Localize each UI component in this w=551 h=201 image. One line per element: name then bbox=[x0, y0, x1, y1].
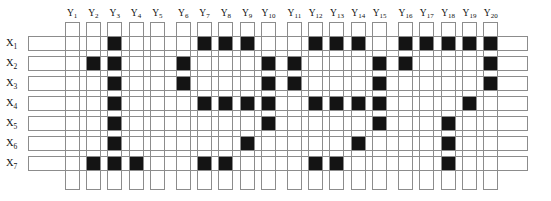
filled-cell-x4-y19 bbox=[463, 97, 476, 110]
filled-cell-x7-y13 bbox=[330, 157, 343, 170]
filled-cell-x4-y10 bbox=[262, 97, 275, 110]
row-label-text: X bbox=[6, 77, 14, 88]
row-label-text: X bbox=[6, 157, 14, 168]
row-strip-x4 bbox=[28, 96, 528, 111]
column-label-text: Y bbox=[178, 8, 185, 18]
column-label-text: Y bbox=[67, 8, 74, 18]
column-label-subscript: 10 bbox=[268, 12, 275, 20]
column-label-y20: Y20 bbox=[475, 8, 506, 20]
row-label-x4: X4 bbox=[6, 97, 17, 110]
filled-cell-x6-y14 bbox=[352, 137, 365, 150]
filled-cell-x7-y12 bbox=[309, 157, 322, 170]
column-label-text: Y bbox=[242, 8, 249, 18]
row-label-text: X bbox=[6, 37, 14, 48]
filled-cell-x4-y9 bbox=[241, 97, 254, 110]
row-label-subscript: 5 bbox=[14, 122, 18, 131]
column-label-subscript: 5 bbox=[159, 12, 163, 20]
row-label-subscript: 7 bbox=[14, 162, 18, 171]
row-label-x5: X5 bbox=[6, 117, 17, 130]
filled-cell-x1-y13 bbox=[330, 37, 343, 50]
row-label-x3: X3 bbox=[6, 77, 17, 90]
filled-cell-x1-y17 bbox=[420, 37, 433, 50]
filled-cell-x3-y3 bbox=[108, 77, 121, 90]
column-label-text: Y bbox=[152, 8, 159, 18]
column-label-subscript: 2 bbox=[95, 12, 99, 20]
column-label-text: Y bbox=[221, 8, 228, 18]
filled-cell-x1-y18 bbox=[442, 37, 455, 50]
filled-cell-x5-y10 bbox=[262, 117, 275, 130]
row-label-subscript: 4 bbox=[14, 102, 18, 111]
column-label-subscript: 9 bbox=[249, 12, 253, 20]
row-label-x1: X1 bbox=[6, 37, 17, 50]
column-label-subscript: 20 bbox=[491, 12, 498, 20]
column-label-subscript: 8 bbox=[228, 12, 232, 20]
column-label-text: Y bbox=[420, 8, 427, 18]
row-label-text: X bbox=[6, 117, 14, 128]
row-label-x6: X6 bbox=[6, 137, 17, 150]
row-label-subscript: 3 bbox=[14, 82, 18, 91]
column-label-subscript: 1 bbox=[74, 12, 78, 20]
filled-cell-x6-y9 bbox=[241, 137, 254, 150]
filled-cell-x2-y10 bbox=[262, 57, 275, 70]
row-strip-x2 bbox=[28, 56, 528, 71]
column-label-text: Y bbox=[373, 8, 380, 18]
filled-cell-x4-y13 bbox=[330, 97, 343, 110]
filled-cell-x1-y14 bbox=[352, 37, 365, 50]
filled-cell-x3-y10 bbox=[262, 77, 275, 90]
filled-cell-x7-y4 bbox=[130, 157, 143, 170]
filled-cell-x1-y12 bbox=[309, 37, 322, 50]
filled-cell-x2-y3 bbox=[108, 57, 121, 70]
filled-cell-x7-y18 bbox=[442, 157, 455, 170]
filled-cell-x3-y11 bbox=[288, 77, 301, 90]
filled-cell-x7-y7 bbox=[198, 157, 211, 170]
filled-cell-x1-y3 bbox=[108, 37, 121, 50]
filled-cell-x2-y6 bbox=[177, 57, 190, 70]
column-label-subscript: 6 bbox=[185, 12, 189, 20]
filled-cell-x5-y18 bbox=[442, 117, 455, 130]
filled-cell-x1-y16 bbox=[399, 37, 412, 50]
row-label-text: X bbox=[6, 97, 14, 108]
filled-cell-x4-y3 bbox=[108, 97, 121, 110]
filled-cell-x3-y15 bbox=[373, 77, 386, 90]
row-strip-x3 bbox=[28, 76, 528, 91]
filled-cell-x5-y15 bbox=[373, 117, 386, 130]
column-label-text: Y bbox=[484, 8, 491, 18]
row-label-subscript: 1 bbox=[14, 42, 18, 51]
incidence-diagram: Y1Y2Y3Y4Y5Y6Y7Y8Y9Y10Y11Y12Y13Y14Y15Y16Y… bbox=[0, 0, 551, 201]
filled-cell-x4-y15 bbox=[373, 97, 386, 110]
row-label-subscript: 6 bbox=[14, 142, 18, 151]
filled-cell-x4-y14 bbox=[352, 97, 365, 110]
filled-cell-x4-y12 bbox=[309, 97, 322, 110]
row-label-text: X bbox=[6, 57, 14, 68]
column-label-subscript: 3 bbox=[116, 12, 120, 20]
filled-cell-x6-y18 bbox=[442, 137, 455, 150]
row-label-x2: X2 bbox=[6, 57, 17, 70]
filled-cell-x4-y7 bbox=[198, 97, 211, 110]
filled-cell-x2-y20 bbox=[484, 57, 497, 70]
filled-cell-x5-y3 bbox=[108, 117, 121, 130]
column-label-text: Y bbox=[309, 8, 316, 18]
filled-cell-x2-y2 bbox=[87, 57, 100, 70]
column-label-subscript: 7 bbox=[206, 12, 210, 20]
filled-cell-x1-y8 bbox=[219, 37, 232, 50]
row-label-x7: X7 bbox=[6, 157, 17, 170]
filled-cell-x7-y3 bbox=[108, 157, 121, 170]
row-label-subscript: 2 bbox=[14, 62, 18, 71]
filled-cell-x3-y20 bbox=[484, 77, 497, 90]
filled-cell-x4-y8 bbox=[219, 97, 232, 110]
filled-cell-x1-y9 bbox=[241, 37, 254, 50]
filled-cell-x3-y6 bbox=[177, 77, 190, 90]
filled-cell-x1-y7 bbox=[198, 37, 211, 50]
filled-cell-x7-y2 bbox=[87, 157, 100, 170]
column-label-subscript: 15 bbox=[380, 12, 387, 20]
column-label-subscript: 4 bbox=[138, 12, 142, 20]
filled-cell-x2-y11 bbox=[288, 57, 301, 70]
filled-cell-x7-y8 bbox=[219, 157, 232, 170]
filled-cell-x2-y16 bbox=[399, 57, 412, 70]
column-label-text: Y bbox=[131, 8, 138, 18]
filled-cell-x1-y20 bbox=[484, 37, 497, 50]
filled-cell-x2-y15 bbox=[373, 57, 386, 70]
row-label-text: X bbox=[6, 137, 14, 148]
filled-cell-x6-y3 bbox=[108, 137, 121, 150]
filled-cell-x1-y19 bbox=[463, 37, 476, 50]
